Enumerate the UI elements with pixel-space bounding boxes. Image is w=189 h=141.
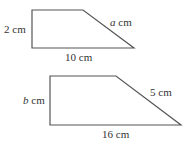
trapezoid-diagram: 2 cm a cm 10 cm b cm 5 cm 16 cm	[0, 0, 189, 141]
trapezoid-2-base-label: 16 cm	[102, 128, 130, 140]
trapezoid-1-slant-label: a cm	[110, 16, 132, 28]
trapezoid-2-shape	[50, 76, 181, 125]
trapezoid-1-base-label: 10 cm	[65, 51, 93, 63]
trapezoid-2-height-label: b cm	[23, 94, 45, 106]
trapezoid-2-slant-label: 5 cm	[150, 86, 172, 98]
trapezoid-1-height-label: 2 cm	[4, 23, 26, 35]
